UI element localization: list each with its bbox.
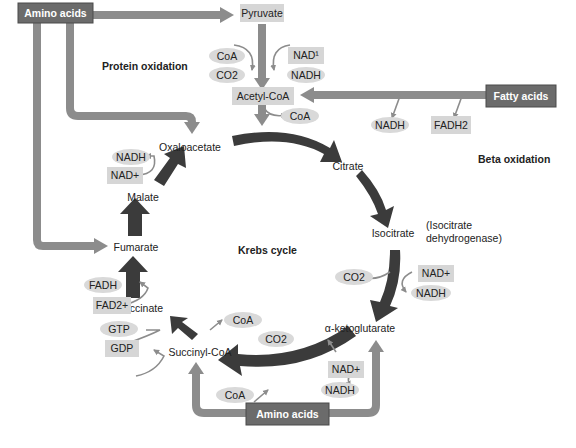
malate-nadh: NADH — [116, 151, 146, 163]
entry-nad: NAD¹ — [293, 49, 319, 61]
fumarate: Fumarate — [114, 241, 159, 253]
fadh: FADH — [89, 279, 117, 291]
krebs-cycle-diagram: Amino acids Fatty acids Amino acids Prot… — [0, 0, 576, 448]
malate-nad: NAD+ — [111, 169, 139, 181]
isocitrate-co2: CO2 — [343, 271, 365, 283]
label-beta-oxidation: Beta oxidation — [478, 153, 550, 165]
arrow-amino-to-akg — [328, 350, 376, 413]
pyruvate: Pyruvate — [241, 7, 283, 19]
source-amino-acids-top: Amino acids — [18, 3, 93, 23]
gtp: GTP — [108, 323, 130, 335]
svg-text:Fatty acids: Fatty acids — [494, 90, 549, 102]
entry-coa: CoA — [217, 50, 237, 62]
succinyl-coa: Succinyl-CoA — [168, 346, 231, 358]
isocitrate-enzyme-line2: dehydrogenase) — [426, 232, 502, 244]
isocitrate-nadh: NADH — [416, 287, 446, 299]
isocitrate-nad: NAD+ — [422, 267, 450, 279]
label-protein-oxidation: Protein oxidation — [102, 60, 188, 72]
alpha-ketoglutarate: α-ketoglutarate — [325, 322, 395, 334]
akg-nad: NAD+ — [332, 363, 360, 375]
citrate: Citrate — [333, 160, 364, 172]
isocitrate: Isocitrate — [372, 227, 415, 239]
entry-nadh: NADH — [291, 69, 321, 81]
beta-fadh2: FADH2 — [434, 119, 468, 131]
entry-co2: CO2 — [216, 69, 238, 81]
label-krebs-cycle: Krebs cycle — [238, 244, 297, 256]
malate: Malate — [127, 191, 159, 203]
akg-nadh: NADH — [325, 384, 355, 396]
akg-co2: CO2 — [265, 333, 287, 345]
oxaloacetate: Oxaloacetate — [159, 141, 221, 153]
arrow-amino-to-oxaloacetate — [70, 22, 192, 124]
source-amino-acids-bottom: Amino acids — [246, 403, 329, 425]
succinyl-coa-coa: CoA — [233, 314, 253, 326]
acetyl-coa: Acetyl-CoA — [237, 90, 290, 102]
gdp: GDP — [111, 342, 134, 354]
source-fatty-acids: Fatty acids — [486, 85, 556, 107]
beta-nadh: NADH — [375, 119, 405, 131]
svg-text:Amino acids: Amino acids — [256, 408, 319, 420]
svg-text:Amino acids: Amino acids — [24, 7, 87, 19]
released-coa: CoA — [290, 110, 310, 122]
fad2plus: FAD2+ — [96, 299, 128, 311]
isocitrate-enzyme-line1: (Isocitrate — [426, 219, 472, 231]
akg-coa: CoA — [225, 389, 245, 401]
